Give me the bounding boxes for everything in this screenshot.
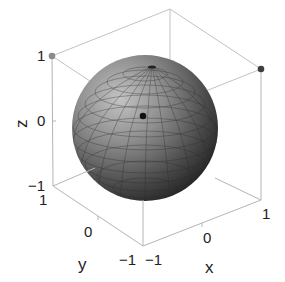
y-tick-1: 1 (39, 191, 47, 208)
marker-corner-top-right (258, 66, 265, 73)
x-tick-1: 1 (262, 205, 270, 222)
sphere-3d-plot: 1 0 −1 z 1 0 −1 y −1 0 1 x (0, 0, 285, 282)
x-tick-neg1: −1 (145, 251, 162, 268)
sphere-surface (72, 55, 218, 201)
z-tick-1: 1 (37, 47, 45, 64)
x-axis-label: x (205, 258, 214, 277)
z-axis-label: z (12, 120, 31, 129)
y-axis-label: y (78, 255, 87, 274)
y-tick-0: 0 (84, 223, 92, 240)
x-tick-0: 0 (203, 229, 211, 246)
marker-center (140, 113, 147, 120)
y-tick-neg1: −1 (119, 251, 136, 268)
z-tick-0: 0 (37, 112, 45, 129)
marker-corner-top-left (49, 53, 56, 60)
